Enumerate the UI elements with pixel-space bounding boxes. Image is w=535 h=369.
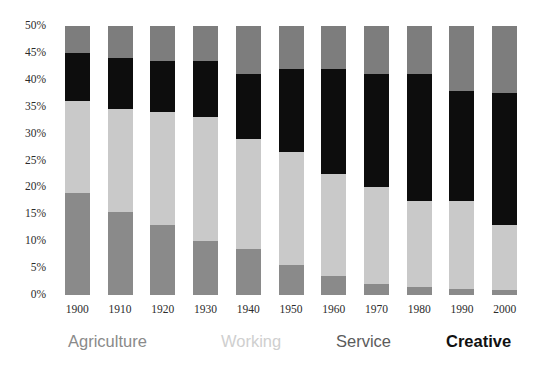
bar-segment-creative	[279, 69, 304, 152]
bar-segment-agriculture	[449, 289, 474, 295]
bar-segment-service	[108, 26, 133, 58]
bar-segment-working	[279, 152, 304, 265]
bar-segment-service	[364, 26, 389, 74]
legend-item-working: Working	[221, 330, 281, 352]
bar-segment-service	[321, 26, 346, 69]
bar-column	[321, 26, 346, 295]
y-axis-tick-label: 50%	[25, 20, 46, 31]
x-axis-tick-label: 1940	[226, 303, 270, 316]
bar-segment-agriculture	[279, 265, 304, 295]
y-axis-tick-label: 5%	[31, 262, 46, 273]
y-axis-tick-label: 15%	[25, 208, 46, 219]
x-axis-tick-label: 1950	[269, 303, 313, 316]
legend-item-agriculture: Agriculture	[68, 330, 147, 352]
bar-segment-service	[65, 26, 90, 53]
bar-segment-working	[236, 139, 261, 249]
stacked-bar-chart: 0%5%10%15%20%25%30%35%40%45%50% 19001910…	[0, 0, 535, 369]
x-axis-tick-label: 1970	[354, 303, 398, 316]
bar-column	[236, 26, 261, 295]
bar-segment-agriculture	[236, 249, 261, 295]
legend-item-service: Service	[336, 330, 391, 352]
y-axis: 0%5%10%15%20%25%30%35%40%45%50%	[0, 0, 52, 305]
bar-segment-service	[150, 26, 175, 61]
bar-column	[65, 26, 90, 295]
bar-segment-service	[236, 26, 261, 74]
bar-segment-agriculture	[65, 193, 90, 295]
bar-segment-creative	[449, 91, 474, 201]
bar-segment-agriculture	[108, 212, 133, 295]
bar-segment-agriculture	[321, 276, 346, 295]
bar-segment-service	[279, 26, 304, 69]
x-axis-tick-label: 1910	[98, 303, 142, 316]
x-axis-tick-label: 1990	[440, 303, 484, 316]
bar-segment-agriculture	[492, 290, 517, 295]
bar-segment-working	[150, 112, 175, 225]
x-axis-tick-label: 2000	[483, 303, 527, 316]
y-axis-tick-label: 30%	[25, 128, 46, 139]
y-axis-tick-label: 20%	[25, 181, 46, 192]
bar-segment-service	[492, 26, 517, 93]
bar-segment-creative	[492, 93, 517, 225]
x-axis-tick-label: 1980	[397, 303, 441, 316]
y-axis-tick-label: 0%	[31, 289, 46, 300]
bar-column	[279, 26, 304, 295]
legend-item-creative: Creative	[446, 330, 511, 352]
bar-column	[108, 26, 133, 295]
x-axis: 1900191019201930194019501960197019801990…	[56, 303, 526, 323]
bar-column	[364, 26, 389, 295]
x-axis-tick-label: 1930	[184, 303, 228, 316]
bar-segment-working	[108, 109, 133, 211]
y-axis-tick-label: 35%	[25, 101, 46, 112]
bar-segment-creative	[65, 53, 90, 101]
bar-segment-creative	[236, 74, 261, 139]
bar-segment-creative	[364, 74, 389, 187]
bar-segment-agriculture	[150, 225, 175, 295]
bar-segment-creative	[321, 69, 346, 174]
x-axis-tick-label: 1920	[141, 303, 185, 316]
y-axis-tick-label: 40%	[25, 74, 46, 85]
x-axis-tick-label: 1900	[55, 303, 99, 316]
bar-segment-creative	[108, 58, 133, 109]
bar-segment-working	[193, 117, 218, 241]
bar-segment-creative	[193, 61, 218, 117]
bar-column	[193, 26, 218, 295]
bar-segment-working	[492, 225, 517, 290]
chart-legend: AgricultureWorkingServiceCreative	[56, 330, 526, 358]
y-axis-tick-label: 25%	[25, 155, 46, 166]
bar-segment-working	[321, 174, 346, 276]
bar-segment-service	[449, 26, 474, 91]
x-axis-tick-label: 1960	[312, 303, 356, 316]
bar-segment-creative	[150, 61, 175, 112]
bar-column	[492, 26, 517, 295]
y-axis-tick-label: 45%	[25, 47, 46, 58]
bar-segment-service	[407, 26, 432, 74]
y-axis-tick-label: 10%	[25, 235, 46, 246]
bar-segment-agriculture	[407, 287, 432, 295]
bar-column	[449, 26, 474, 295]
bar-segment-service	[193, 26, 218, 61]
bar-segment-working	[65, 101, 90, 192]
bar-segment-creative	[407, 74, 432, 200]
bar-segment-working	[364, 187, 389, 284]
bar-column	[150, 26, 175, 295]
bar-segment-working	[449, 201, 474, 289]
bar-segment-agriculture	[364, 284, 389, 295]
bar-column	[407, 26, 432, 295]
bar-segment-working	[407, 201, 432, 287]
bar-segment-agriculture	[193, 241, 218, 295]
plot-area	[56, 26, 526, 295]
